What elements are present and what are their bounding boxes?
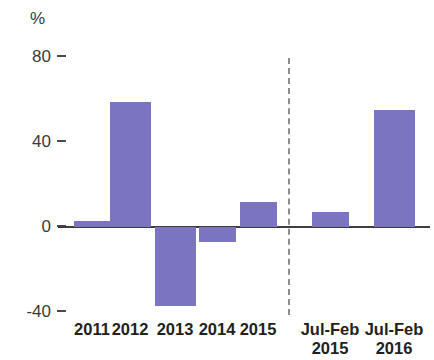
bar-2015 bbox=[240, 202, 277, 228]
period-divider-line bbox=[288, 58, 290, 315]
x-axis-label-Jul-Feb-2016: Jul-Feb2016 bbox=[349, 320, 434, 359]
y-axis-ticks: 80400-40 bbox=[0, 0, 66, 360]
bar-2014 bbox=[199, 227, 236, 242]
x-axis-label-line1: Jul-Feb bbox=[365, 320, 424, 338]
bar-Jul-Feb-2016 bbox=[374, 110, 415, 227]
y-axis-tick-label: 0 bbox=[42, 217, 51, 237]
bar-2013 bbox=[155, 227, 196, 306]
y-axis-tick-label: 80 bbox=[32, 47, 51, 67]
bar-Jul-Feb-2015 bbox=[312, 212, 349, 227]
x-axis-label-line2: 2016 bbox=[349, 339, 434, 358]
x-axis-label-line1: 2015 bbox=[240, 320, 277, 338]
plot-area: 20112012201320142015Jul-Feb2015Jul-Feb20… bbox=[58, 0, 430, 360]
y-axis-tick-label: -40 bbox=[26, 302, 51, 322]
bar-chart: % 80400-40 20112012201320142015Jul-Feb20… bbox=[0, 0, 434, 360]
y-axis-tick-label: 40 bbox=[32, 132, 51, 152]
bar-2012 bbox=[110, 102, 151, 227]
bar-2011 bbox=[74, 221, 111, 227]
